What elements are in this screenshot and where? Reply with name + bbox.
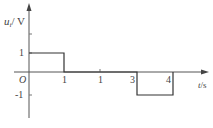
x-label-unit: /s [201,80,207,90]
y-axis-label: ui/ V [4,16,25,30]
y-tick-label-neg1: -1 [15,90,23,100]
x-axis-label: t/s [198,80,207,90]
y-axis-arrow-icon [27,3,32,11]
x-tick-label-4: 4 [166,75,171,85]
origin-label: O [19,75,26,85]
x-axis-arrow-icon [201,70,209,75]
y-label-unit: / V [11,15,25,27]
x-tick-label-1: 1 [62,75,67,85]
y-tick-label-1: 1 [19,48,24,58]
x-tick-label-3: 3 [130,75,135,85]
waveform-chart [0,0,213,128]
x-tick-label-2: 1 [98,75,103,85]
